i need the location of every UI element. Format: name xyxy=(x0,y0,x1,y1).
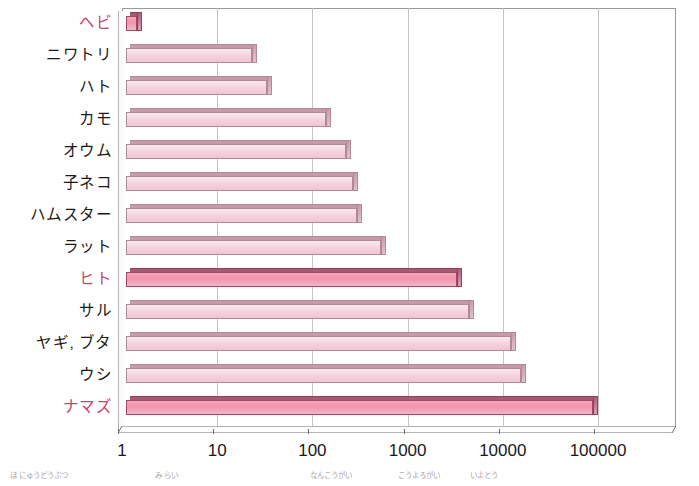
bar-top-face xyxy=(130,108,330,112)
y-axis-label: ウシ xyxy=(0,367,112,382)
furigana-text: み らい xyxy=(155,472,178,480)
x-axis-tick-label: 100 xyxy=(298,442,326,459)
bar-body xyxy=(126,112,326,127)
bar-top-face xyxy=(130,364,525,368)
bar-top-face xyxy=(130,396,597,400)
y-axis-label: ヒト xyxy=(0,271,112,286)
bar xyxy=(126,204,357,219)
y-axis-label: サル xyxy=(0,303,112,318)
y-axis-label: ハムスター xyxy=(0,207,112,222)
bar-end-cap xyxy=(326,108,331,127)
bar-body xyxy=(126,48,252,63)
bar-top-face xyxy=(130,76,271,80)
y-axis-labels: ヘビニワトリハトカモオウム子ネコハムスターラットヒトサルヤギ, ブタウシナマズ xyxy=(0,8,112,428)
bar-top-face xyxy=(130,300,473,304)
bar-end-cap xyxy=(137,12,142,31)
bar-body xyxy=(126,144,346,159)
furigana-text: いよとう xyxy=(470,472,498,480)
x-axis-tick-label: 10 xyxy=(208,442,227,459)
bar xyxy=(126,364,521,379)
bar-end-cap xyxy=(357,204,362,223)
furigana-text: こうよろがい xyxy=(398,472,440,480)
bar-body xyxy=(126,80,267,95)
bar-top-face xyxy=(130,268,461,272)
bar-top-face xyxy=(130,236,385,240)
y-axis-label: ニワトリ xyxy=(0,47,112,62)
bar-top-face xyxy=(130,44,256,48)
bar xyxy=(126,236,381,251)
bar xyxy=(126,44,252,59)
bar-top-face xyxy=(130,332,515,336)
x-axis-tick-label: 1000 xyxy=(389,442,427,459)
bar xyxy=(126,332,511,347)
y-axis-label: ナマズ xyxy=(0,399,112,414)
bar-top-face xyxy=(130,140,350,144)
bar-body xyxy=(126,272,457,287)
bar-body xyxy=(126,304,469,319)
bar-body xyxy=(126,368,521,383)
bar-end-cap xyxy=(267,76,272,95)
bar xyxy=(126,268,457,283)
bar-body xyxy=(126,176,353,191)
bar-end-cap xyxy=(381,236,386,255)
bar xyxy=(126,172,353,187)
bar xyxy=(126,12,137,27)
furigana-strip: ほ にゅうどうぶつみ らいなんこうがいこうよろがいいよとう xyxy=(0,470,699,486)
bar-end-cap xyxy=(457,268,462,287)
bar-body xyxy=(126,240,381,255)
y-axis-label: ハト xyxy=(0,79,112,94)
bar-top-face xyxy=(130,172,357,176)
bar-body xyxy=(126,208,357,223)
bar-end-cap xyxy=(346,140,351,159)
bar-end-cap xyxy=(521,364,526,383)
bar xyxy=(126,396,593,411)
x-axis-tick-label: 10000 xyxy=(479,442,526,459)
bar-end-cap xyxy=(511,332,516,351)
bar xyxy=(126,300,469,315)
bar-chart: ヘビニワトリハトカモオウム子ネコハムスターラットヒトサルヤギ, ブタウシナマズ … xyxy=(0,0,699,486)
y-axis-label: 子ネコ xyxy=(0,175,112,190)
bar xyxy=(126,76,267,91)
x-axis-tick-label: 100000 xyxy=(570,442,627,459)
furigana-text: ほ にゅうどうぶつ xyxy=(10,472,68,480)
bar-body xyxy=(126,336,511,351)
y-axis-label: カモ xyxy=(0,111,112,126)
y-axis-label: ヘビ xyxy=(0,15,112,30)
bar-end-cap xyxy=(593,396,598,415)
bar-end-cap xyxy=(252,44,257,63)
furigana-text: なんこうがい xyxy=(310,472,352,480)
bar xyxy=(126,108,326,123)
bar-end-cap xyxy=(353,172,358,191)
bar-top-face xyxy=(130,204,361,208)
x-axis-tick-labels: 110100100010000100000 xyxy=(0,440,699,464)
y-axis-label: オウム xyxy=(0,143,112,158)
bar-series xyxy=(122,8,682,433)
y-axis-label: ヤギ, ブタ xyxy=(0,335,112,350)
x-axis-tick-label: 1 xyxy=(117,442,126,459)
bar-body xyxy=(126,16,137,31)
bar-body xyxy=(126,400,593,415)
x-axis-tick xyxy=(118,429,119,434)
bar-end-cap xyxy=(469,300,474,319)
y-axis-label: ラット xyxy=(0,239,112,254)
bar xyxy=(126,140,346,155)
